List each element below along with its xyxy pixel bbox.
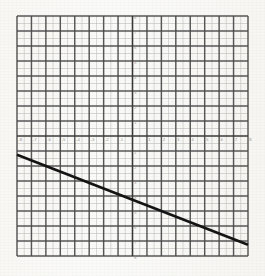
x-tick-label: 2	[163, 137, 166, 142]
y-axis-tick-labels: 8765432112345678	[134, 15, 137, 260]
x-tick-label: -8	[18, 137, 22, 142]
x-tick-label: -3	[90, 137, 94, 142]
x-tick-label: 4	[192, 137, 195, 142]
grid-svg: -8-7-6-5-4-3-2-112345678 876543211234567…	[0, 0, 265, 276]
x-tick-label: -4	[76, 137, 80, 142]
x-tick-label: 1	[148, 137, 151, 142]
x-tick-label: 3	[177, 137, 180, 142]
x-tick-label: -7	[33, 137, 37, 142]
x-tick-label: -6	[47, 137, 51, 142]
axes	[17, 16, 248, 256]
x-tick-label: 6	[220, 137, 223, 142]
x-tick-label: -1	[119, 137, 123, 142]
x-tick-label: 8	[249, 137, 252, 142]
x-tick-label: -2	[105, 137, 109, 142]
x-tick-label: 7	[235, 137, 238, 142]
graph-screenshot: -8-7-6-5-4-3-2-112345678 876543211234567…	[0, 0, 265, 276]
x-tick-label: 5	[206, 137, 209, 142]
x-tick-label: -5	[62, 137, 66, 142]
coordinate-plane: -8-7-6-5-4-3-2-112345678 876543211234567…	[0, 0, 265, 276]
